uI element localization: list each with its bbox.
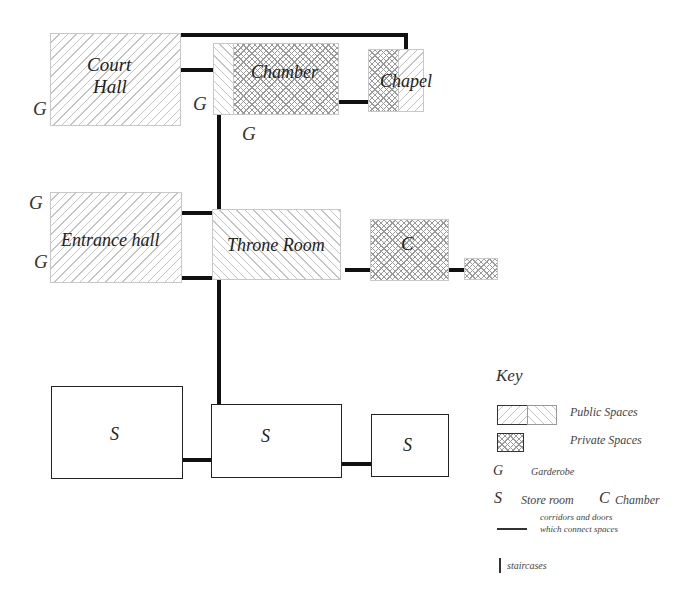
legend-chamber-symbol: C bbox=[599, 490, 610, 506]
legend-private-label: Private Spaces bbox=[570, 433, 642, 447]
room-store-3: S bbox=[371, 414, 449, 477]
room-chamber: Chamber bbox=[233, 43, 339, 115]
legend-store-label: Store room bbox=[521, 493, 574, 507]
room-store-2: S bbox=[211, 404, 342, 478]
room-chamber-c: C bbox=[370, 219, 449, 281]
legend-chamber-label: Chamber bbox=[615, 493, 660, 507]
garderobe-chamber-below: G bbox=[242, 124, 256, 143]
room-entrance-hall: Entrance hall bbox=[50, 192, 182, 283]
room-store-1: S bbox=[51, 386, 183, 479]
staircase-throne-to-store bbox=[217, 280, 221, 404]
legend-swatch-private bbox=[497, 433, 524, 452]
store-1-label: S bbox=[110, 425, 119, 443]
legend-swatch-public-forward bbox=[497, 405, 528, 425]
corridor-store2-to-store3 bbox=[342, 462, 371, 466]
room-court-hall: Court Hall bbox=[50, 33, 181, 126]
court-hall-label-line2: Hall bbox=[93, 77, 127, 96]
legend-garderobe-label: Garderobe bbox=[531, 466, 574, 478]
corridor-throne-to-c bbox=[345, 268, 370, 272]
legend-garderobe-symbol: G bbox=[493, 464, 503, 478]
store-3-label: S bbox=[403, 436, 412, 454]
chamber-c-label: C bbox=[401, 234, 414, 253]
legend-swatch-public-back bbox=[527, 405, 557, 425]
room-chamber-garderobe-strip bbox=[213, 43, 234, 115]
garderobe-court-hall: G bbox=[33, 99, 47, 118]
legend-corridor-label-1: corridors and doors bbox=[540, 512, 613, 523]
legend-corridor-label-2: which connect spaces bbox=[540, 524, 618, 535]
store-2-label: S bbox=[261, 427, 270, 445]
corridor-chamber-to-chapel bbox=[339, 100, 368, 104]
legend-staircase-label: staircases bbox=[507, 560, 547, 572]
legend-store-symbol: S bbox=[494, 490, 502, 506]
legend-corridor-line-icon bbox=[497, 528, 527, 530]
corridor-store1-to-store2 bbox=[183, 458, 211, 462]
legend-title: Key bbox=[496, 366, 522, 386]
room-small-private bbox=[464, 258, 498, 280]
garderobe-entrance-bottom: G bbox=[34, 252, 48, 271]
staircase-chamber-to-throne bbox=[217, 115, 221, 209]
chapel-label: Chapel bbox=[380, 72, 432, 90]
corridor-entrance-to-throne-top bbox=[182, 211, 212, 215]
court-hall-label-line1: Court bbox=[87, 55, 131, 74]
garderobe-chamber-left: G bbox=[193, 94, 207, 113]
corridor-c-to-small bbox=[449, 268, 464, 272]
legend-staircase-line-icon bbox=[499, 558, 501, 573]
corridor-court-to-chamber bbox=[181, 68, 213, 72]
corridor-court-to-chapel-top bbox=[181, 33, 408, 37]
entrance-hall-label: Entrance hall bbox=[61, 231, 159, 249]
garderobe-entrance-top: G bbox=[29, 193, 43, 212]
throne-room-label: Throne Room bbox=[227, 236, 325, 254]
legend-public-label: Public Spaces bbox=[570, 405, 638, 419]
corridor-entrance-to-throne-bottom bbox=[182, 276, 212, 280]
room-throne-room: Throne Room bbox=[212, 209, 341, 280]
chamber-label: Chamber bbox=[251, 63, 318, 81]
